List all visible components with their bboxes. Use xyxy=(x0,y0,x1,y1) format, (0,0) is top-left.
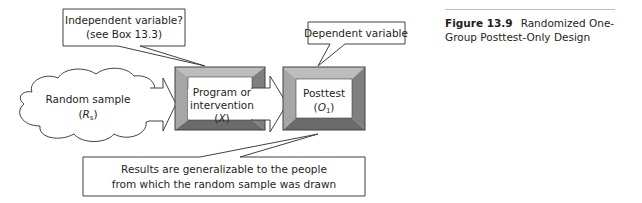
callout-dependent-variable: Dependent variable xyxy=(304,22,408,66)
callout-independent-line1: Independent variable? xyxy=(65,14,183,26)
callout-results-line1: Results are generalizable to the people xyxy=(121,163,327,175)
callout-results-generalizable: Results are generalizable to the people … xyxy=(83,134,365,196)
random-sample-cloud: Random sample (Rs) xyxy=(20,68,158,141)
random-sample-symbol: (Rs) xyxy=(78,108,97,122)
callout-dependent-line1: Dependent variable xyxy=(304,27,408,39)
program-label-line1: Program or xyxy=(193,86,252,98)
posttest-symbol: (O1) xyxy=(314,101,335,115)
figure-caption: Figure 13.9Randomized One-Group Posttest… xyxy=(445,9,615,44)
callout-results-line2: from which the random sample was drawn xyxy=(112,178,336,190)
callout-independent-line2: (see Box 13.3) xyxy=(86,28,162,40)
program-symbol: (X) xyxy=(214,112,229,124)
figure-number: Figure 13.9 xyxy=(445,17,513,29)
posttest-box: Posttest (O1) xyxy=(283,67,365,130)
posttest-label: Posttest xyxy=(303,87,345,99)
program-label-line2: intervention xyxy=(190,99,254,111)
callout-independent-variable: Independent variable? (see Box 13.3) xyxy=(63,9,205,66)
random-sample-label: Random sample xyxy=(46,93,131,105)
